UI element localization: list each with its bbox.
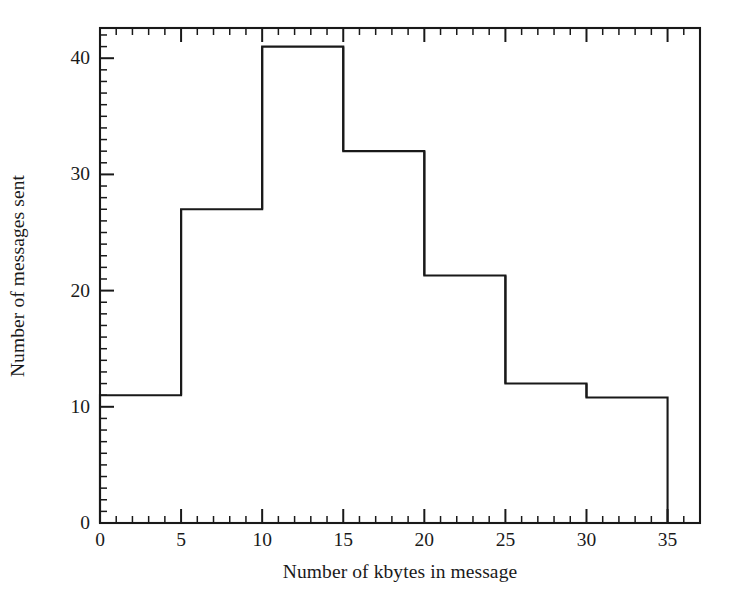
- plot-frame: [100, 28, 700, 523]
- x-tick-label: 10: [252, 529, 272, 551]
- y-tick-label: 10: [44, 396, 90, 418]
- histogram-figure: Number of messages sent Number of kbytes…: [0, 0, 738, 613]
- x-tick-label: 0: [95, 529, 105, 551]
- x-tick-label: 35: [658, 529, 678, 551]
- y-axis-title: Number of messages sent: [7, 174, 29, 376]
- x-tick-label: 15: [333, 529, 353, 551]
- x-tick-label: 20: [415, 529, 435, 551]
- y-tick-label: 30: [44, 163, 90, 185]
- x-axis-title: Number of kbytes in message: [100, 561, 700, 583]
- y-axis-title-container: Number of messages sent: [0, 28, 36, 523]
- x-tick-label: 30: [577, 529, 597, 551]
- x-tick-label: 5: [176, 529, 186, 551]
- y-tick-label: 20: [44, 280, 90, 302]
- y-tick-label: 0: [44, 512, 90, 534]
- plot-canvas: [0, 0, 738, 613]
- y-tick-label: 40: [44, 47, 90, 69]
- x-tick-label: 25: [496, 529, 516, 551]
- histogram-outline: [100, 47, 668, 523]
